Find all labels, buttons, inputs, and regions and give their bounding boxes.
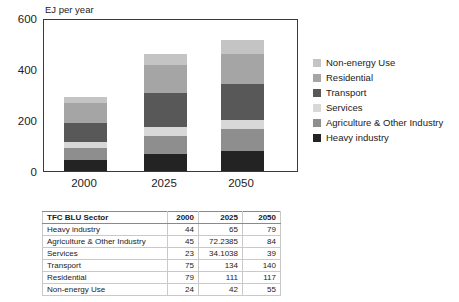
legend-key-icon: [313, 119, 321, 127]
table-cell: 75: [168, 260, 199, 272]
table-cell: 72.2385: [199, 236, 243, 248]
legend-item-services: Services: [313, 100, 443, 115]
bar-segment-heavy-industry: [64, 160, 107, 171]
x-axis: 200020252050: [43, 177, 298, 191]
table-header-row: TFC BLU Sector200020252050: [43, 212, 281, 224]
table-cell: 65: [199, 224, 243, 236]
bar-segment-transport: [221, 84, 264, 120]
legend: Non-energy UseResidentialTransportServic…: [313, 55, 443, 145]
legend-item-heavy-industry: Heavy industry: [313, 130, 443, 145]
y-tick-label: 200: [0, 115, 37, 127]
y-tick-label: 400: [0, 64, 37, 76]
table-header-cell: 2000: [168, 212, 199, 224]
legend-label: Residential: [326, 72, 373, 83]
legend-item-non-energy-use: Non-energy Use: [313, 55, 443, 70]
bar-segment-services: [144, 127, 187, 136]
legend-label: Services: [326, 102, 362, 113]
table-row: Residential79111117: [43, 272, 281, 284]
legend-label: Non-energy Use: [326, 57, 395, 68]
table-cell: 134: [199, 260, 243, 272]
table-cell: 42: [199, 284, 243, 296]
table-cell: 79: [243, 224, 281, 236]
bar-segment-agriculture-other-industry: [221, 129, 264, 150]
table-row: Heavy industry446579: [43, 224, 281, 236]
legend-key-icon: [313, 74, 321, 82]
table-cell: Non-energy Use: [43, 284, 168, 296]
bar-segment-heavy-industry: [221, 151, 264, 171]
legend-label: Agriculture & Other Industry: [326, 117, 443, 128]
x-axis-label: 2025: [151, 177, 177, 189]
legend-key-icon: [313, 134, 321, 142]
table-header-cell: 2025: [199, 212, 243, 224]
table-cell: 79: [168, 272, 199, 284]
table-cell: 111: [199, 272, 243, 284]
bar-segment-transport: [144, 93, 187, 127]
y-axis-title: EJ per year: [45, 4, 94, 15]
legend-item-agriculture-other-industry: Agriculture & Other Industry: [313, 115, 443, 130]
bar-segment-transport: [64, 123, 107, 142]
table-cell: 140: [243, 260, 281, 272]
legend-label: Transport: [326, 87, 366, 98]
table-row: Non-energy Use244255: [43, 284, 281, 296]
table-cell: 45: [168, 236, 199, 248]
bar-segment-non-energy-use: [144, 54, 187, 65]
table-header-cell: TFC BLU Sector: [43, 212, 168, 224]
table-cell: 44: [168, 224, 199, 236]
table-body: Heavy industry446579Agriculture & Other …: [43, 224, 281, 296]
bar-2025: [144, 54, 187, 171]
table-header-cell: 2050: [243, 212, 281, 224]
bar-segment-non-energy-use: [221, 40, 264, 54]
legend-key-icon: [313, 89, 321, 97]
table-row: Services2334.103839: [43, 248, 281, 260]
y-axis: 0200400600: [0, 19, 37, 172]
plot-area: [43, 19, 298, 172]
table-cell: Residential: [43, 272, 168, 284]
bar-segment-heavy-industry: [144, 154, 187, 171]
table-cell: Transport: [43, 260, 168, 272]
bar-segment-services: [221, 120, 264, 130]
table-row: Agriculture & Other Industry4572.238584: [43, 236, 281, 248]
table-cell: Services: [43, 248, 168, 260]
bar-2000: [64, 97, 107, 171]
bar-segment-agriculture-other-industry: [64, 148, 107, 159]
bar-segment-residential: [64, 103, 107, 123]
bar-segment-residential: [221, 54, 264, 84]
table-cell: 23: [168, 248, 199, 260]
table-cell: 55: [243, 284, 281, 296]
x-axis-label: 2050: [228, 177, 254, 189]
table-cell: 24: [168, 284, 199, 296]
bar-segment-agriculture-other-industry: [144, 136, 187, 154]
y-tick-label: 0: [0, 166, 37, 178]
table-cell: 39: [243, 248, 281, 260]
y-tick-label: 600: [0, 13, 37, 25]
figure: EJ per year 0200400600 200020252050 Non-…: [0, 0, 459, 302]
bar-2050: [221, 40, 264, 171]
table-cell: 34.1038: [199, 248, 243, 260]
table-cell: Agriculture & Other Industry: [43, 236, 168, 248]
legend-item-transport: Transport: [313, 85, 443, 100]
data-table: TFC BLU Sector200020252050 Heavy industr…: [42, 211, 281, 296]
legend-key-icon: [313, 59, 321, 67]
bar-segment-residential: [144, 65, 187, 93]
legend-label: Heavy industry: [326, 132, 389, 143]
table-cell: 84: [243, 236, 281, 248]
table-cell: 117: [243, 272, 281, 284]
table-cell: Heavy industry: [43, 224, 168, 236]
table-row: Transport75134140: [43, 260, 281, 272]
x-axis-label: 2000: [71, 177, 97, 189]
legend-key-icon: [313, 104, 321, 112]
legend-item-residential: Residential: [313, 70, 443, 85]
